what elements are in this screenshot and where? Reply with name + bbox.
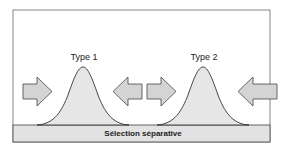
type-2-label: Type 2 [190, 52, 217, 62]
type-1-label: Type 1 [70, 52, 97, 62]
selection-bar-label: Sélection séparative [104, 129, 182, 138]
disruptive-selection-diagram: Type 1 Type 2 Sélection séparative [0, 0, 286, 150]
